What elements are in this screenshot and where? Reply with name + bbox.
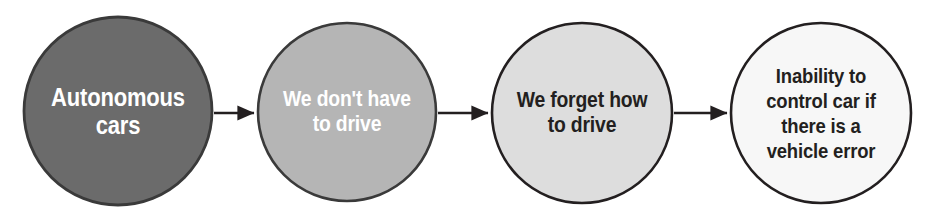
flowchart-graphic	[0, 0, 928, 217]
node-we-dont-have-to-drive[interactable]	[258, 23, 436, 201]
node-inability-to-control-car[interactable]	[731, 23, 911, 203]
node-group	[24, 17, 911, 205]
flowchart-canvas: Autonomous cars We don't have to drive W…	[0, 0, 928, 217]
node-autonomous-cars[interactable]	[24, 17, 212, 205]
node-we-forget-how-to-drive[interactable]	[492, 23, 672, 203]
